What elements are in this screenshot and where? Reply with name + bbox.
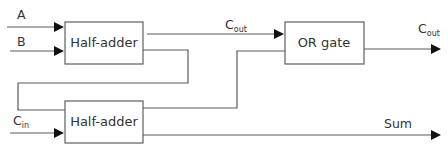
sum-signal: Sum [143,116,441,140]
input-cin-label: Cin [13,113,29,130]
carry-out-signal: Cout [364,21,441,54]
input-a: A [7,7,64,32]
carry-out-label: Cout [418,21,440,38]
input-b-label: B [17,34,26,49]
arrow-icon [274,29,284,39]
arrow-icon [54,128,64,138]
or-gate-label: OR gate [298,35,351,50]
sum-label: Sum [384,116,412,131]
half-adder-2: Half-adder [65,101,143,143]
wire-carry-2 [143,51,285,108]
half-adder-2-label: Half-adder [70,114,138,129]
carry-mid-label: Cout [225,17,247,34]
full-adder-diagram: A B Half-adder Cout Cin Half-adder OR ga… [0,0,448,153]
input-cin: Cin [10,113,64,138]
arrow-icon [54,46,64,56]
arrow-icon [431,130,441,140]
arrow-icon [431,44,441,54]
input-b: B [10,34,64,56]
half-adder-1-label: Half-adder [70,35,138,50]
half-adder-1: Half-adder [65,22,143,64]
carry-mid-signal: Cout [147,17,284,39]
or-gate: OR gate [285,22,364,64]
arrow-icon [54,22,64,32]
input-a-label: A [17,7,26,22]
